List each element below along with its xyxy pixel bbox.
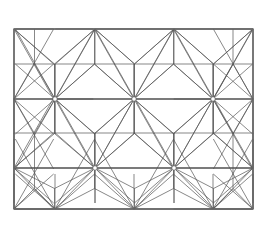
star-hub-node-r1-c2: [132, 97, 136, 101]
star-hub-node-r2-c2: [172, 166, 176, 170]
star-hub-node-r2-c1: [93, 166, 97, 170]
asanoha-lattice-figure: Asanoha geometric lattice pattern: [0, 0, 272, 227]
star-hub-node-r1-c3: [211, 97, 215, 101]
star-hub-node-r1-c1: [53, 97, 57, 101]
